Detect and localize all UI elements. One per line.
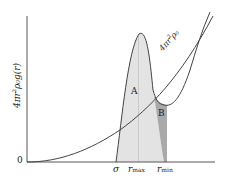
y-label-rest: ρ₀g(r) <box>12 63 22 89</box>
origin-label: 0 <box>17 155 23 165</box>
region-a-label: A <box>131 86 138 96</box>
rmax-sub: max <box>132 166 145 173</box>
y-label-main: 4πr <box>12 92 22 108</box>
x-tick-rmax: rmax <box>128 164 145 174</box>
rmin-sub: min <box>161 166 172 173</box>
region-b-label: B <box>158 108 165 118</box>
y-label-sup: 2 <box>11 89 17 92</box>
x-tick-sigma: σ <box>113 164 119 174</box>
x-tick-rmin: rmin <box>157 164 173 174</box>
y-axis-label: 4πr2ρ₀g(r) <box>11 56 22 116</box>
rdf-diagram: 4πr2ρ₀g(r) 0 4πr2ρ₀ A B σ rmax rmin <box>0 0 229 184</box>
diagram-canvas <box>0 0 229 184</box>
